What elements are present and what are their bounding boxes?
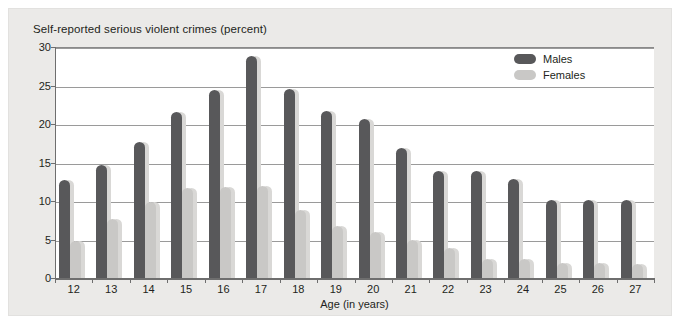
bar-females: [519, 259, 530, 278]
x-tick-mark: [579, 278, 580, 283]
x-tick-label: 26: [583, 283, 613, 295]
bar-males: [284, 89, 295, 278]
x-tick-label: 13: [96, 283, 126, 295]
bar-females: [257, 186, 268, 278]
bar-group: [130, 47, 167, 278]
x-tick-mark: [355, 278, 356, 283]
bar-females: [332, 226, 343, 278]
bar-males: [59, 180, 70, 278]
bar-males: [171, 112, 182, 278]
x-tick-mark: [542, 278, 543, 283]
x-tick-mark: [280, 278, 281, 283]
x-tick-mark: [205, 278, 206, 283]
x-tick-label: 25: [545, 283, 575, 295]
x-tick-mark: [92, 278, 93, 283]
bar-males: [508, 179, 519, 278]
bar-males: [471, 171, 482, 278]
chart-figure: Self-reported serious violent crimes (pe…: [8, 8, 672, 316]
bar-group: [617, 47, 654, 278]
bar-females: [107, 219, 118, 278]
x-tick-label: 12: [59, 283, 89, 295]
x-tick-mark: [55, 278, 56, 283]
bar-males: [396, 148, 407, 278]
x-tick-label: 20: [358, 283, 388, 295]
y-tick-label: 25: [29, 80, 51, 92]
y-tick-label: 30: [29, 41, 51, 53]
y-axis-ticks: 051015202530: [25, 9, 51, 317]
x-tick-mark: [467, 278, 468, 283]
bar-females: [444, 248, 455, 278]
bar-group: [205, 47, 242, 278]
x-tick-label: 17: [246, 283, 276, 295]
x-tick-mark: [242, 278, 243, 283]
bar-males: [583, 200, 594, 278]
y-tick-label: 15: [29, 157, 51, 169]
chart-legend: Males Females: [514, 51, 585, 83]
bar-females: [220, 187, 231, 278]
bar-group: [55, 47, 92, 278]
bar-group: [167, 47, 204, 278]
legend-swatch-females-icon: [514, 70, 536, 80]
bar-males: [621, 200, 632, 278]
x-tick-mark: [392, 278, 393, 283]
y-tick-label: 0: [29, 272, 51, 284]
x-tick-mark: [429, 278, 430, 283]
bar-males: [321, 111, 332, 278]
bar-males: [433, 171, 444, 278]
bar-group: [467, 47, 504, 278]
bar-females: [632, 264, 643, 278]
x-tick-label: 21: [396, 283, 426, 295]
x-tick-label: 18: [283, 283, 313, 295]
bar-females: [295, 210, 306, 278]
bar-males: [359, 119, 370, 278]
x-tick-label: 16: [208, 283, 238, 295]
legend-item-females: Females: [514, 67, 585, 83]
bar-females: [182, 188, 193, 278]
bar-females: [594, 263, 605, 278]
bar-group: [280, 47, 317, 278]
x-tick-mark: [130, 278, 131, 283]
legend-item-males: Males: [514, 51, 585, 67]
bar-females: [407, 240, 418, 278]
legend-label-males: Males: [543, 53, 572, 65]
bar-females: [70, 241, 81, 278]
x-tick-mark: [617, 278, 618, 283]
bar-males: [546, 200, 557, 278]
x-tick-mark: [167, 278, 168, 283]
bar-males: [209, 90, 220, 278]
bar-group: [242, 47, 279, 278]
y-tick-label: 5: [29, 234, 51, 246]
x-axis-title: Age (in years): [55, 298, 654, 310]
x-tick-label: 22: [433, 283, 463, 295]
bar-group: [355, 47, 392, 278]
bar-group: [317, 47, 354, 278]
bar-males: [134, 142, 145, 278]
bar-females: [557, 263, 568, 278]
chart-title: Self-reported serious violent crimes (pe…: [33, 23, 267, 35]
bar-males: [246, 56, 257, 278]
x-tick-label: 19: [321, 283, 351, 295]
x-tick-label: 23: [471, 283, 501, 295]
legend-label-females: Females: [543, 69, 585, 81]
x-tick-mark: [504, 278, 505, 283]
x-tick-mark: [654, 278, 655, 283]
bar-males: [96, 165, 107, 278]
y-tick-label: 10: [29, 195, 51, 207]
y-tick-label: 20: [29, 118, 51, 130]
bar-females: [482, 259, 493, 278]
x-tick-label: 27: [620, 283, 650, 295]
bar-females: [370, 232, 381, 278]
x-tick-mark: [317, 278, 318, 283]
x-tick-label: 24: [508, 283, 538, 295]
bar-females: [145, 202, 156, 278]
bar-group: [429, 47, 466, 278]
legend-swatch-males-icon: [514, 54, 536, 64]
x-tick-label: 14: [134, 283, 164, 295]
x-tick-label: 15: [171, 283, 201, 295]
bar-group: [392, 47, 429, 278]
bar-group: [92, 47, 129, 278]
